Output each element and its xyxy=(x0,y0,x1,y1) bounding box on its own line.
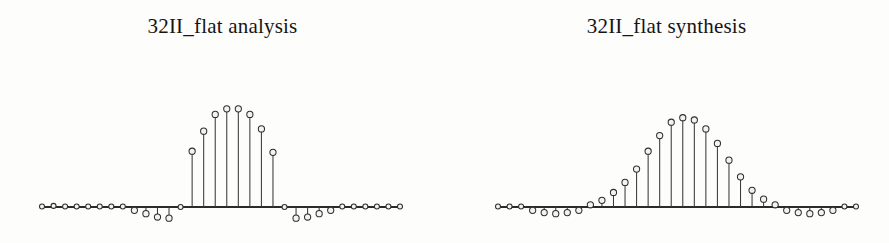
synthesis-stem-marker xyxy=(737,174,743,180)
panel-analysis: 32II_flat analysis xyxy=(0,0,445,243)
synthesis-stem-marker xyxy=(691,117,697,123)
synthesis-stem-marker xyxy=(657,132,663,138)
synthesis-stem-marker xyxy=(726,157,732,163)
synthesis-stem-marker xyxy=(564,209,570,215)
analysis-stem-marker xyxy=(282,205,287,210)
analysis-stem-marker xyxy=(305,214,311,220)
analysis-stem-marker xyxy=(247,111,253,117)
panel-synthesis: 32II_flat synthesis xyxy=(444,0,889,243)
analysis-stem-marker xyxy=(363,204,368,209)
synthesis-stem-marker xyxy=(749,187,755,193)
synthesis-stem-marker xyxy=(761,196,767,202)
analysis-stem-marker xyxy=(340,204,345,209)
analysis-stem-marker xyxy=(120,204,125,209)
analysis-stem-marker xyxy=(178,205,183,210)
analysis-stem-marker xyxy=(201,128,207,134)
synthesis-stem-marker xyxy=(599,197,605,203)
analysis-stem-marker xyxy=(166,215,172,221)
analysis-stem-marker xyxy=(235,106,241,112)
stem-plot-synthesis xyxy=(444,0,889,243)
analysis-stem-marker xyxy=(189,148,195,154)
analysis-stem-marker xyxy=(51,203,56,208)
stem-plot-synthesis-svg xyxy=(444,0,889,243)
analysis-stem-marker xyxy=(293,215,299,221)
synthesis-stem-marker xyxy=(622,179,628,185)
stem-plot-analysis xyxy=(0,0,445,243)
analysis-stem-marker xyxy=(63,204,68,209)
synthesis-stem-marker xyxy=(496,204,501,209)
analysis-stem-marker xyxy=(258,126,264,132)
analysis-stem-marker xyxy=(131,207,137,213)
synthesis-stem-marker xyxy=(714,140,720,146)
analysis-stem-marker xyxy=(109,204,114,209)
synthesis-stem-marker xyxy=(842,204,847,209)
analysis-stem-marker xyxy=(328,207,334,213)
synthesis-stem-marker xyxy=(784,207,790,213)
synthesis-stem-marker xyxy=(541,209,547,215)
synthesis-stem-marker xyxy=(507,204,512,209)
analysis-stem-marker xyxy=(374,204,379,209)
synthesis-stem-marker xyxy=(587,202,593,208)
stem-plot-analysis-svg xyxy=(0,0,445,243)
analysis-stem-marker xyxy=(97,204,102,209)
analysis-stem-marker xyxy=(74,204,79,209)
figure-canvas: 32II_flat analysis 32II_flat synthesis xyxy=(0,0,889,243)
analysis-stem-marker xyxy=(224,106,230,112)
analysis-stem-marker xyxy=(40,204,45,209)
synthesis-stem-marker xyxy=(818,209,824,215)
synthesis-stem-marker xyxy=(668,119,674,125)
synthesis-stems xyxy=(496,115,859,217)
analysis-stem-marker xyxy=(212,111,218,117)
analysis-stem-marker xyxy=(316,211,322,217)
analysis-stem-marker xyxy=(270,149,276,155)
synthesis-stem-marker xyxy=(854,204,859,209)
synthesis-stem-marker xyxy=(576,207,582,213)
analysis-stems xyxy=(40,106,403,222)
synthesis-stem-marker xyxy=(530,207,536,213)
synthesis-stem-marker xyxy=(807,211,813,217)
analysis-stem-marker xyxy=(154,214,160,220)
analysis-stem-marker xyxy=(398,204,403,209)
synthesis-stem-marker xyxy=(795,209,801,215)
analysis-stem-marker xyxy=(386,204,391,209)
synthesis-stem-marker xyxy=(830,207,836,213)
analysis-stem-marker xyxy=(351,204,356,209)
synthesis-stem-marker xyxy=(680,115,686,121)
synthesis-stem-marker xyxy=(772,202,778,208)
analysis-stem-marker xyxy=(86,204,91,209)
synthesis-stem-marker xyxy=(610,189,616,195)
synthesis-stem-marker xyxy=(519,204,524,209)
synthesis-stem-marker xyxy=(703,126,709,132)
synthesis-stem-marker xyxy=(553,211,559,217)
analysis-stem-marker xyxy=(143,211,149,217)
synthesis-stem-marker xyxy=(645,148,651,154)
synthesis-stem-marker xyxy=(633,166,639,172)
